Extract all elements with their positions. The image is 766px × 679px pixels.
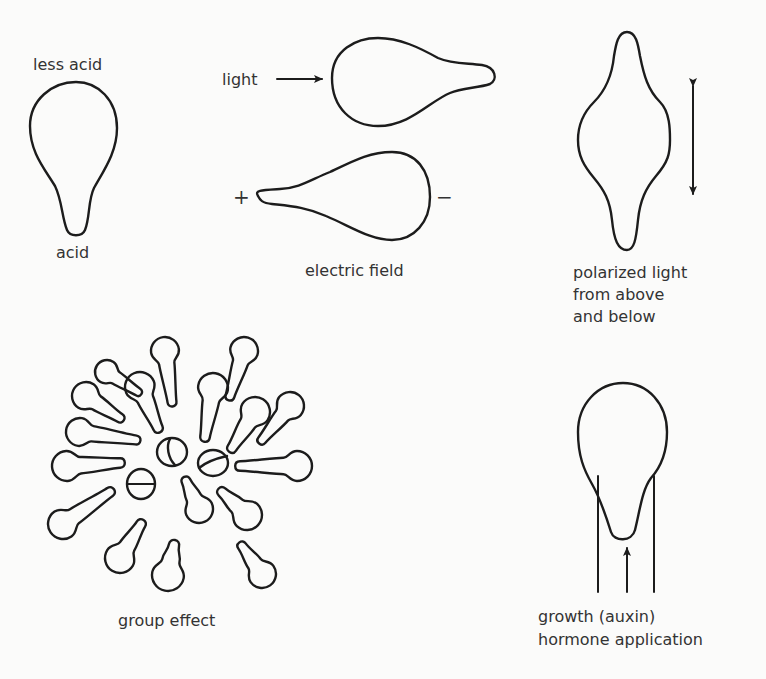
label-light: light	[222, 70, 257, 89]
panel-electric-field: + − electric field	[233, 152, 453, 280]
group-cell	[152, 540, 184, 591]
caption-polarized-line-3: and below	[573, 307, 656, 326]
panel-acid-gradient: less acid acid	[30, 55, 117, 262]
panel-light: light	[222, 38, 495, 126]
cell-light	[332, 38, 495, 126]
dividing-cell	[157, 438, 187, 466]
dividing-cell	[127, 469, 155, 499]
group-cell	[66, 418, 140, 446]
group-cell	[151, 337, 179, 406]
dividing-cell-septum	[168, 439, 175, 465]
group-cell	[225, 337, 258, 401]
group-cell	[105, 519, 146, 573]
dividing-cell	[198, 450, 228, 476]
caption-polarized-line-1: polarized light	[573, 263, 687, 282]
panel-group-effect: group effect	[48, 337, 312, 630]
group-cell	[198, 373, 228, 442]
caption-polarized-line-2: from above	[573, 285, 664, 304]
caption-hormone-line-1: growth (auxin)	[538, 607, 655, 626]
group-cell	[181, 476, 213, 523]
label-acid: acid	[56, 243, 89, 262]
group-cell	[217, 487, 262, 530]
cell-acid-gradient	[30, 82, 117, 235]
group-cell	[72, 382, 125, 423]
dividing-cell-outline	[198, 450, 228, 476]
panel-hormone-application: growth (auxin) hormone application	[538, 383, 703, 649]
caption-hormone-line-2: hormone application	[538, 630, 703, 649]
group-cell	[235, 451, 312, 481]
diagram-canvas: less acid acid light + − electric field …	[0, 0, 766, 679]
dividing-cell-septum	[199, 456, 227, 468]
caption-group-effect: group effect	[118, 611, 215, 630]
group-cell	[48, 487, 115, 539]
negative-sign: −	[436, 185, 453, 209]
group-cell	[95, 360, 142, 396]
label-less-acid: less acid	[33, 55, 102, 74]
panel-polarized-light: polarized light from above and below	[573, 32, 693, 326]
group-cell	[52, 451, 125, 481]
cell-polarized-light	[578, 32, 670, 250]
caption-electric-field: electric field	[305, 261, 404, 280]
positive-sign: +	[233, 185, 250, 209]
group-cell	[237, 541, 276, 588]
cell-electric-field	[257, 152, 430, 240]
